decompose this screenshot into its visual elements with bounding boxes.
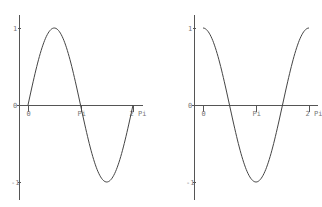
y-tick-label: -1 [186, 179, 194, 187]
x-tick-label: 2 Pi [306, 110, 322, 118]
y-tick-label: 0 [188, 102, 192, 110]
plots-canvas: 0Pi2 Pi10-1 0Pi2 Pi10-1 [0, 0, 322, 207]
x-tick-label: 0 [27, 110, 31, 118]
x-tick-label: Pi [253, 110, 261, 118]
cos-plot: 0Pi2 Pi10-1 [186, 15, 322, 200]
y-tick-label: -1 [11, 179, 19, 187]
x-tick-label: 0 [202, 110, 206, 118]
y-tick-label: 1 [13, 25, 17, 33]
sin-plot: 0Pi2 Pi10-1 [11, 15, 146, 200]
y-tick-label: 0 [13, 102, 17, 110]
y-tick-label: 1 [188, 25, 192, 33]
